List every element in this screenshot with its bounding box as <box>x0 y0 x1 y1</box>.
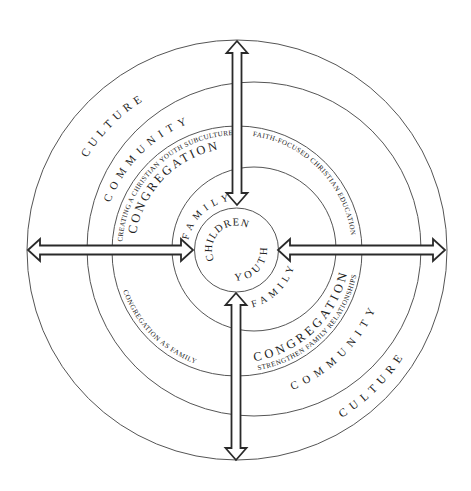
label-culture-lower-right: CULTURE <box>336 353 404 420</box>
double-arrow-vertical-icon <box>227 41 248 205</box>
strategy-lower-left: CONGREGATION AS FAMILY <box>121 289 197 366</box>
label-children-text: CHILDREN <box>203 216 251 262</box>
double-arrow-vertical-icon <box>226 293 247 460</box>
label-culture-upper-left-text: CULTURE <box>78 93 143 159</box>
label-culture-lower-right-text: CULTURE <box>336 353 404 420</box>
label-family-upper-left: FAMILY <box>180 192 230 241</box>
double-arrow-horizontal-icon <box>28 239 193 261</box>
strategy-lower-left-text: CONGREGATION AS FAMILY <box>121 289 197 366</box>
label-family-upper-left-text: FAMILY <box>180 192 230 241</box>
label-youth-text: YOUTH <box>234 247 269 283</box>
label-youth: YOUTH <box>234 247 269 283</box>
label-culture-upper-left: CULTURE <box>78 93 143 159</box>
diagram-canvas: CULTURE COMMUNITY CREATING A CHRISTIAN Y… <box>0 0 471 491</box>
concentric-circles-diagram: CULTURE COMMUNITY CREATING A CHRISTIAN Y… <box>0 0 471 491</box>
label-children: CHILDREN <box>203 216 251 262</box>
